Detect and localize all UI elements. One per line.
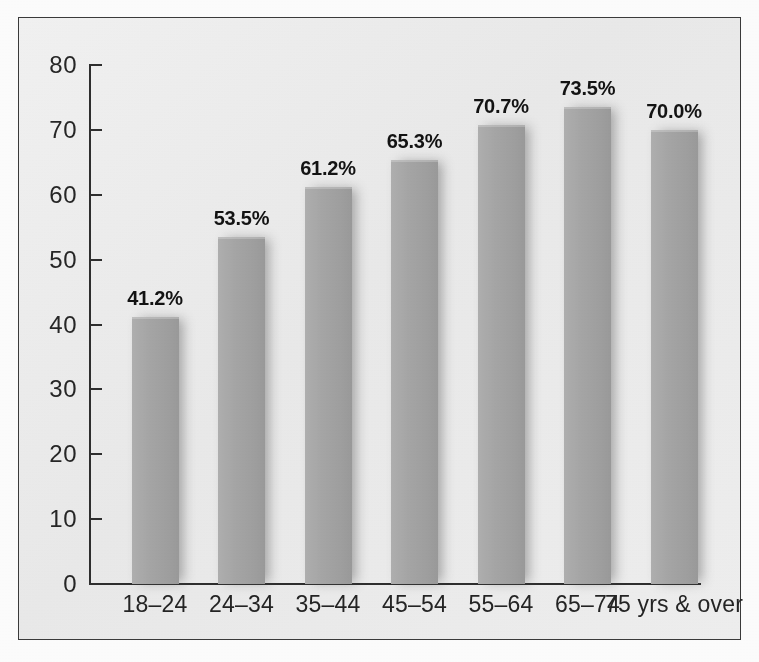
y-tick-label: 50 <box>49 246 77 274</box>
y-tick-label: 80 <box>49 51 77 79</box>
x-axis-label: 45–54 <box>382 591 447 618</box>
y-tick-mark <box>89 129 102 131</box>
y-tick-label: 10 <box>49 505 77 533</box>
y-tick-0: 0 <box>89 583 102 585</box>
y-tick-mark <box>89 64 102 66</box>
y-tick-mark <box>89 583 102 585</box>
y-tick-label: 40 <box>49 311 77 339</box>
y-tick-80: 80 <box>89 64 102 66</box>
y-tick-30: 30 <box>89 388 102 390</box>
x-axis-label: 24–34 <box>209 591 274 618</box>
bar-value-label: 70.0% <box>646 100 702 123</box>
x-axis-label: 35–44 <box>296 591 361 618</box>
y-tick-50: 50 <box>89 259 102 261</box>
y-tick-70: 70 <box>89 129 102 131</box>
x-axis-label: 75 yrs & over <box>605 591 743 618</box>
bar-value-label: 70.7% <box>473 95 529 118</box>
chart-panel: 80706050403020100 41.2%53.5%61.2%65.3%70… <box>18 17 741 640</box>
y-tick-20: 20 <box>89 453 102 455</box>
y-tick-mark <box>89 388 102 390</box>
bar[interactable]: 70.7% <box>478 125 525 584</box>
bar[interactable]: 41.2% <box>132 317 179 584</box>
chart-figure: 80706050403020100 41.2%53.5%61.2%65.3%70… <box>0 0 759 662</box>
plot-area: 80706050403020100 41.2%53.5%61.2%65.3%70… <box>19 18 742 641</box>
bar[interactable]: 65.3% <box>391 160 438 584</box>
y-tick-mark <box>89 324 102 326</box>
y-tick-label: 70 <box>49 116 77 144</box>
y-tick-10: 10 <box>89 518 102 520</box>
y-tick-40: 40 <box>89 324 102 326</box>
y-tick-mark <box>89 518 102 520</box>
y-tick-mark <box>89 194 102 196</box>
bar-value-label: 61.2% <box>300 157 356 180</box>
bar-value-label: 73.5% <box>560 77 616 100</box>
bar[interactable]: 53.5% <box>218 237 265 584</box>
y-tick-60: 60 <box>89 194 102 196</box>
y-tick-label: 30 <box>49 375 77 403</box>
bar-value-label: 41.2% <box>127 287 183 310</box>
bar[interactable]: 61.2% <box>305 187 352 584</box>
bar-value-label: 65.3% <box>387 130 443 153</box>
bar[interactable]: 73.5% <box>564 107 611 584</box>
y-tick-mark <box>89 259 102 261</box>
bar[interactable]: 70.0% <box>651 130 698 584</box>
x-axis-label: 18–24 <box>123 591 188 618</box>
y-tick-mark <box>89 453 102 455</box>
y-tick-label: 60 <box>49 181 77 209</box>
bar-value-label: 53.5% <box>214 207 270 230</box>
y-tick-label: 0 <box>63 570 77 598</box>
x-axis-label: 55–64 <box>469 591 534 618</box>
y-tick-label: 20 <box>49 440 77 468</box>
